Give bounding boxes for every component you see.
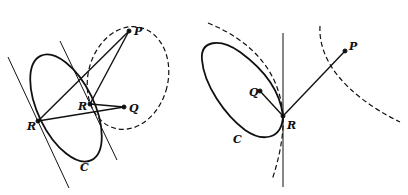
point-p-right bbox=[343, 49, 347, 53]
dashed-curve-outer bbox=[320, 26, 400, 122]
point-r-outer bbox=[36, 119, 40, 123]
label-p-left: P bbox=[133, 25, 143, 38]
curve-c-right bbox=[202, 43, 283, 137]
label-q-right: Q bbox=[249, 86, 259, 99]
label-q-left: Q bbox=[129, 102, 139, 115]
point-q-right bbox=[258, 89, 262, 93]
segment-r-p-right bbox=[283, 51, 345, 116]
label-c-left: C bbox=[80, 161, 89, 174]
right-panel bbox=[202, 23, 400, 187]
label-c-right: C bbox=[233, 133, 242, 146]
figure: P Q R R C P Q R C bbox=[0, 0, 408, 195]
label-r-right: R bbox=[286, 119, 296, 132]
dashed-ellipse-left bbox=[77, 18, 180, 138]
diagram-canvas: P Q R R C P Q R C bbox=[0, 0, 408, 195]
label-r-outer: R bbox=[26, 120, 36, 133]
point-r-right bbox=[281, 114, 285, 118]
label-p-right: P bbox=[348, 40, 358, 53]
left-panel bbox=[8, 18, 179, 188]
point-p-left bbox=[127, 29, 131, 33]
label-r-inner: R bbox=[77, 100, 87, 113]
point-r-inner bbox=[88, 102, 92, 106]
segment-r-inner-p bbox=[90, 31, 129, 104]
point-q-left bbox=[122, 105, 126, 109]
curve-c-left bbox=[15, 44, 116, 173]
tangent-line-inner bbox=[60, 41, 117, 160]
